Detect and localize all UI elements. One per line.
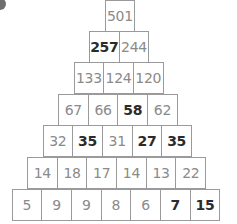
pyramid-cell[interactable]: 32 bbox=[43, 125, 74, 157]
pyramid-cell[interactable]: 501 bbox=[105, 0, 136, 32]
pyramid-cell[interactable]: 244 bbox=[119, 31, 150, 63]
pyramid-cell[interactable]: 67 bbox=[58, 94, 89, 126]
pyramid-cell[interactable]: 124 bbox=[103, 62, 134, 94]
pyramid-cell[interactable]: 14 bbox=[27, 157, 58, 189]
pyramid-row-6: 14 18 17 14 13 22 bbox=[27, 157, 206, 189]
number-pyramid: 501 257 244 133 124 120 67 66 58 62 32 3… bbox=[0, 0, 237, 224]
pyramid-cell[interactable]: 6 bbox=[130, 189, 161, 221]
pyramid-cell[interactable]: 18 bbox=[57, 157, 88, 189]
pyramid-cell[interactable]: 62 bbox=[147, 94, 178, 126]
pyramid-cell[interactable]: 8 bbox=[101, 189, 132, 221]
pyramid-cell[interactable]: 7 bbox=[160, 189, 191, 221]
pyramid-cell[interactable]: 35 bbox=[72, 125, 103, 157]
pyramid-cell[interactable]: 9 bbox=[41, 189, 72, 221]
pyramid-cell[interactable]: 9 bbox=[71, 189, 102, 221]
pyramid-row-5: 32 35 31 27 35 bbox=[43, 125, 192, 157]
pyramid-row-2: 257 244 bbox=[89, 31, 149, 63]
pyramid-cell[interactable]: 133 bbox=[74, 62, 105, 94]
pyramid-cell[interactable]: 13 bbox=[146, 157, 177, 189]
pyramid-row-7: 5 9 9 8 6 7 15 bbox=[12, 189, 221, 221]
pyramid-row-1: 501 bbox=[105, 0, 136, 32]
pyramid-cell[interactable]: 17 bbox=[86, 157, 117, 189]
pyramid-cell[interactable]: 15 bbox=[190, 189, 221, 221]
pyramid-cell[interactable]: 66 bbox=[88, 94, 119, 126]
pyramid-cell[interactable]: 120 bbox=[133, 62, 164, 94]
pyramid-row-4: 67 66 58 62 bbox=[58, 94, 178, 126]
pyramid-cell[interactable]: 14 bbox=[116, 157, 147, 189]
pyramid-cell[interactable]: 257 bbox=[89, 31, 120, 63]
pyramid-cell[interactable]: 31 bbox=[102, 125, 133, 157]
pyramid-cell[interactable]: 5 bbox=[12, 189, 43, 221]
pyramid-cell[interactable]: 27 bbox=[132, 125, 163, 157]
pyramid-cell[interactable]: 35 bbox=[161, 125, 192, 157]
pyramid-cell[interactable]: 22 bbox=[175, 157, 206, 189]
pyramid-cell[interactable]: 58 bbox=[117, 94, 148, 126]
pyramid-row-3: 133 124 120 bbox=[74, 62, 164, 94]
